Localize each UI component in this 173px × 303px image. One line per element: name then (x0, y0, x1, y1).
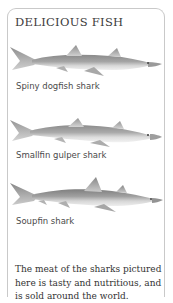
shark-label: Smallfin gulper shark (16, 150, 106, 160)
shark-label: Soupfin shark (16, 216, 74, 226)
shark-illustration (8, 37, 164, 83)
shark-plate: Soupfin shark (8, 171, 164, 217)
delicious-fish-card: DELICIOUS FISH (7, 8, 165, 297)
page-title: DELICIOUS FISH (15, 15, 123, 29)
caption-text: The meat of the sharks pictured here is … (15, 263, 163, 303)
shark-illustration (8, 171, 164, 217)
shark-illustration (8, 106, 164, 152)
shark-plate: Spiny dogfish shark (8, 37, 164, 83)
shark-label: Spiny dogfish shark (16, 81, 100, 91)
shark-plate: Smallfin gulper shark (8, 106, 164, 152)
